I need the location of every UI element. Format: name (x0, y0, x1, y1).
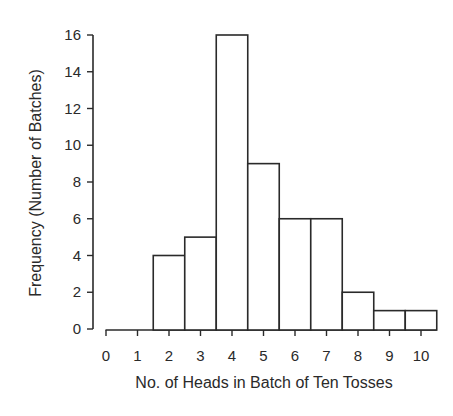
x-axis: 012345678910 (102, 330, 437, 364)
y-tick-label: 2 (73, 283, 81, 300)
x-tick-label: 9 (385, 347, 393, 364)
histogram-bar (311, 219, 343, 330)
x-tick-label: 3 (196, 347, 204, 364)
bars (153, 35, 437, 330)
x-tick-label: 10 (413, 347, 430, 364)
histogram-bar (216, 35, 248, 330)
x-tick-label: 1 (133, 347, 141, 364)
x-tick-label: 6 (291, 347, 299, 364)
histogram-bar (279, 219, 311, 330)
x-tick-label: 0 (102, 347, 110, 364)
y-tick-label: 16 (64, 26, 81, 43)
y-axis: 0246810121416 (64, 26, 93, 337)
y-tick-label: 0 (73, 320, 81, 337)
histogram-bar (374, 311, 406, 330)
x-axis-title: No. of Heads in Batch of Ten Tosses (135, 374, 392, 391)
y-tick-label: 12 (64, 100, 81, 117)
histogram-bar (405, 311, 437, 330)
x-tick-label: 8 (354, 347, 362, 364)
y-tick-label: 8 (73, 173, 81, 190)
histogram-bar (342, 292, 374, 330)
histogram-bar (185, 237, 217, 330)
y-tick-label: 10 (64, 136, 81, 153)
histogram-chart: 0246810121416 012345678910 Frequency (Nu… (0, 0, 453, 416)
y-tick-label: 14 (64, 63, 81, 80)
y-axis-title: Frequency (Number of Batches) (27, 69, 44, 297)
x-tick-label: 5 (259, 347, 267, 364)
histogram-bar (153, 256, 185, 331)
x-tick-label: 4 (228, 347, 236, 364)
y-tick-label: 6 (73, 210, 81, 227)
x-tick-label: 2 (165, 347, 173, 364)
x-tick-label: 7 (322, 347, 330, 364)
y-tick-label: 4 (73, 247, 81, 264)
histogram-bar (248, 164, 280, 330)
